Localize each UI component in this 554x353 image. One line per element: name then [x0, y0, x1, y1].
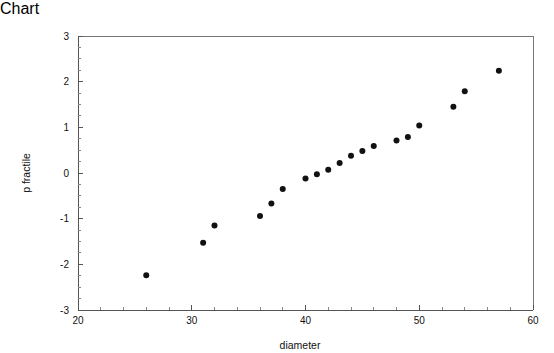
- data-series-normal-probability-plot: [143, 68, 502, 279]
- x-tick-label: 60: [527, 315, 539, 326]
- x-tick-label: 30: [186, 315, 198, 326]
- x-axis: 2030405060: [72, 305, 539, 326]
- data-point: [212, 223, 218, 229]
- data-point: [405, 134, 411, 140]
- y-axis-tick-labels: -3-2-10123: [60, 31, 69, 316]
- data-point: [257, 213, 263, 219]
- data-point: [450, 104, 456, 110]
- y-tick-label: -1: [60, 213, 69, 224]
- x-axis-tick-labels: 2030405060: [72, 315, 539, 326]
- data-point: [200, 240, 206, 246]
- data-point: [496, 68, 502, 74]
- y-axis: -3-2-10123: [60, 31, 83, 316]
- y-axis-title: p fractile: [20, 153, 32, 193]
- y-tick-label: 3: [63, 31, 69, 42]
- data-point: [280, 186, 286, 192]
- data-point: [394, 138, 400, 144]
- y-tick-label: 0: [63, 168, 69, 179]
- chart-figure: -3-2-10123 2030405060 diameter p fractil…: [0, 18, 554, 353]
- data-point: [143, 272, 149, 278]
- scatter-plot-canvas: -3-2-10123 2030405060 diameter p fractil…: [0, 18, 554, 353]
- data-point: [303, 175, 309, 181]
- data-point: [371, 143, 377, 149]
- y-tick-label: -2: [60, 259, 69, 270]
- x-tick-label: 40: [300, 315, 312, 326]
- y-tick-label: 1: [63, 122, 69, 133]
- x-tick-label: 50: [414, 315, 426, 326]
- data-point: [416, 123, 422, 129]
- y-tick-label: 2: [63, 76, 69, 87]
- data-point: [348, 153, 354, 159]
- x-axis-title: diameter: [280, 339, 321, 351]
- x-tick-label: 20: [72, 315, 84, 326]
- data-point: [462, 88, 468, 94]
- data-point: [268, 201, 274, 207]
- y-tick-label: -3: [60, 305, 69, 316]
- y-axis-ticks: [78, 36, 83, 310]
- data-point: [359, 148, 365, 154]
- data-point: [314, 171, 320, 177]
- plot-frame: [78, 36, 533, 310]
- x-axis-ticks: [78, 305, 533, 310]
- data-point: [325, 167, 331, 173]
- data-point: [337, 160, 343, 166]
